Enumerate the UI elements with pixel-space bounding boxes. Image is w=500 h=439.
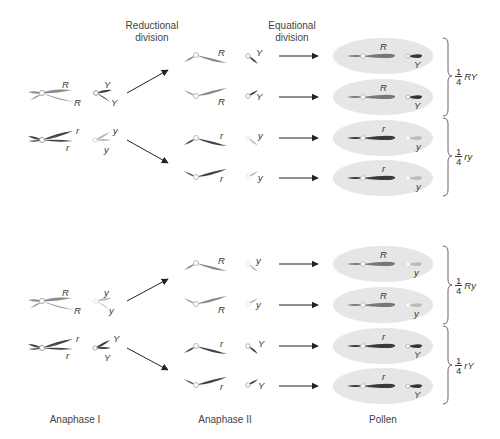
anaphase2-small-y2-top <box>246 171 258 179</box>
allele-label: r <box>66 143 69 153</box>
allele-label: y <box>256 256 261 266</box>
allele-label: Y <box>258 339 264 349</box>
arrow-reductional-down <box>127 140 168 163</box>
header-equational-division: Equational division <box>252 20 332 44</box>
allele-label: r <box>382 164 385 174</box>
allele-label: r <box>66 351 69 361</box>
allele-label: Y <box>256 48 262 58</box>
anaphase1-small-y-top <box>93 132 111 142</box>
ratio-RY: 14 RY <box>455 67 477 86</box>
allele-label: R <box>218 305 225 315</box>
arrow-reductional-down-bottom <box>127 348 168 370</box>
allele-label: r <box>220 339 223 349</box>
arrow-reductional-up-bottom <box>127 279 168 301</box>
allele-label: y <box>414 268 419 278</box>
allele-label: R <box>380 250 387 260</box>
anaphase2-small-Y2-bottom <box>246 379 258 387</box>
allele-label: r <box>382 332 385 342</box>
allele-label: R <box>218 256 225 266</box>
header-equational-line2: division <box>252 32 332 44</box>
anaphase1-small-Y-bottom <box>93 340 111 350</box>
allele-label: r <box>382 124 385 134</box>
allele-label: R <box>380 291 387 301</box>
ratio-ry: 14 ry <box>455 147 472 166</box>
allele-label: y <box>104 288 109 298</box>
allele-label: y <box>416 182 421 192</box>
allele-label: R <box>218 48 225 58</box>
header-reductional-line1: Reductional <box>112 20 192 32</box>
allele-label: Y <box>104 80 110 90</box>
allele-label: Y <box>104 353 110 363</box>
allele-label: y <box>414 309 419 319</box>
header-reductional-line2: division <box>112 32 192 44</box>
allele-label: r <box>76 334 79 344</box>
anaphase2-small-Y1-bottom <box>246 344 258 354</box>
stage-label-anaphase2: Anaphase II <box>190 414 260 426</box>
ratio-rY: 14 rY <box>455 356 474 375</box>
allele-label: r <box>220 131 223 141</box>
braces-bottom <box>443 246 452 404</box>
allele-label: Y <box>113 334 119 344</box>
allele-label: y <box>113 126 118 136</box>
allele-label: y <box>104 145 109 155</box>
arrows-equational-bottom <box>279 264 318 386</box>
allele-label: Y <box>414 390 420 400</box>
stage-label-pollen: Pollen <box>348 414 418 426</box>
allele-label: r <box>220 382 223 392</box>
allele-label: Y <box>111 98 117 108</box>
allele-label: r <box>220 174 223 184</box>
anaphase1-small-Y-top <box>94 90 112 102</box>
allele-label: y <box>258 173 263 183</box>
allele-label: Y <box>414 350 420 360</box>
anaphase1-chromosome-R-top <box>28 89 75 102</box>
stage-label-anaphase1: Anaphase I <box>40 414 110 426</box>
allele-label: R <box>380 83 387 93</box>
allele-label: R <box>74 306 81 316</box>
allele-label: Y <box>256 92 262 102</box>
allele-label: y <box>258 131 263 141</box>
anaphase1-chromosome-R-bottom <box>28 297 75 310</box>
allele-label: y <box>416 142 421 152</box>
header-equational-line1: Equational <box>252 20 332 32</box>
allele-label: Y <box>414 101 420 111</box>
meiosis-diagram <box>0 0 500 439</box>
allele-label: r <box>76 126 79 136</box>
allele-label: r <box>382 372 385 382</box>
anaphase1-chromosome-r-top <box>28 131 73 143</box>
ratio-Ry: 14 Ry <box>455 276 476 295</box>
allele-label: y <box>256 300 261 310</box>
allele-label: R <box>74 98 81 108</box>
arrow-reductional-up <box>127 70 168 93</box>
braces-top <box>443 38 452 196</box>
arrows-equational-top <box>279 56 318 178</box>
allele-label: Y <box>414 60 420 70</box>
anaphase2-small-y1-top <box>246 136 258 146</box>
anaphase1-chromosome-r-bottom <box>28 339 73 351</box>
allele-label: R <box>62 80 69 90</box>
allele-label: y <box>109 306 114 316</box>
allele-label: R <box>380 42 387 52</box>
header-reductional-division: Reductional division <box>112 20 192 44</box>
allele-label: R <box>218 97 225 107</box>
allele-label: R <box>62 288 69 298</box>
allele-label: Y <box>258 381 264 391</box>
